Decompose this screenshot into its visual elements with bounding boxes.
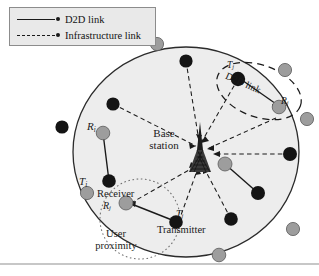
legend-dot-icon — [56, 33, 60, 37]
legend-line-solid — [17, 19, 55, 20]
node-gray — [278, 63, 291, 76]
base-station-label-line2: station — [149, 139, 178, 151]
node-dark — [283, 147, 297, 161]
legend-line-dashed — [17, 35, 55, 36]
user-proximity-line1: User — [106, 228, 126, 239]
legend-label-infrastructure: Infrastructure link — [65, 30, 141, 41]
node-label-sub: j — [109, 204, 111, 211]
node-label-rx-j-bottom: Rj — [103, 201, 111, 212]
node-dark — [55, 120, 68, 133]
user-proximity-line2: proximity — [95, 240, 136, 251]
node-gray — [286, 222, 299, 235]
node-dark — [251, 186, 265, 200]
node-gray — [96, 126, 110, 140]
node-label-rx-j-top: Rj — [281, 96, 289, 107]
legend-label-d2d: D2D link — [65, 14, 104, 25]
transmitter-annotation: Transmitter — [157, 224, 206, 235]
legend: D2D link Infrastructure link — [9, 7, 156, 46]
node-label-tx-j-top: Tj — [227, 60, 234, 71]
node-label-tx-i: Ti — [79, 176, 87, 189]
node-dark — [179, 54, 192, 67]
node-label-sub: j — [287, 99, 289, 106]
node-label-sub: j — [182, 212, 184, 219]
node-dark — [224, 212, 238, 226]
node-gray — [212, 248, 226, 262]
node-label-rx-i: Ri — [87, 121, 96, 134]
node-label-sub: i — [94, 126, 96, 134]
node-label-sub: i — [85, 181, 87, 189]
base-station-label-line1: Base — [153, 127, 174, 139]
base-station-label: Base station — [142, 128, 186, 152]
user-proximity-annotation: User proximity — [85, 228, 147, 252]
receiver-annotation: Receiver — [97, 188, 134, 199]
legend-dot-icon — [56, 17, 60, 21]
legend-item-infrastructure: Infrastructure link — [17, 28, 141, 42]
node-dark — [102, 174, 116, 188]
node-label-sub: j — [232, 63, 234, 70]
node-dark — [106, 97, 119, 110]
node-gray — [218, 157, 232, 171]
node-label-tx-j-bottom: Tj — [176, 209, 183, 220]
node-label-base: R — [87, 120, 94, 132]
legend-item-d2d: D2D link — [17, 12, 104, 26]
node-gray — [300, 112, 313, 125]
